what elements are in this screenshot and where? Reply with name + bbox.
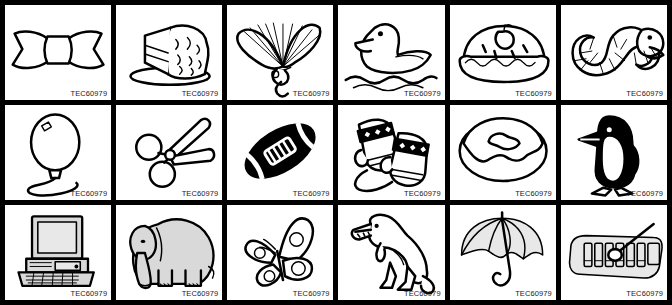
penguin-icon bbox=[561, 105, 667, 200]
clipart-cell-football[interactable]: TEC60979 bbox=[227, 105, 333, 200]
cell-code: TEC60979 bbox=[515, 289, 552, 299]
butterfly-icon bbox=[227, 205, 333, 300]
clipart-cell-pie[interactable]: TEC60979 bbox=[450, 5, 556, 100]
clipart-cell-butterfly[interactable]: TEC60979 bbox=[227, 205, 333, 300]
cell-code: TEC60979 bbox=[404, 89, 441, 99]
cell-code: TEC60979 bbox=[515, 189, 552, 199]
cell-code: TEC60979 bbox=[404, 289, 441, 299]
clipart-cell-duck[interactable]: TEC60979 bbox=[338, 5, 444, 100]
football-icon bbox=[227, 105, 333, 200]
clipart-cell-penguin[interactable]: TEC60979 bbox=[561, 105, 667, 200]
clipart-cell-umbrella[interactable]: TEC60979 bbox=[450, 205, 556, 300]
clipart-grid-sheet: TEC60979 TEC60979 TEC60979 bbox=[0, 0, 672, 305]
donut-icon bbox=[450, 105, 556, 200]
clipart-cell-xylophone[interactable]: TEC60979 bbox=[561, 205, 667, 300]
clipart-cell-computer[interactable]: TEC60979 bbox=[5, 205, 111, 300]
clipart-cell-mittens[interactable]: TEC60979 bbox=[338, 105, 444, 200]
duck-icon bbox=[338, 5, 444, 100]
clipart-cell-cake[interactable]: TEC60979 bbox=[116, 5, 222, 100]
clipart-cell-scissors[interactable]: TEC60979 bbox=[116, 105, 222, 200]
clipart-cell-balloon[interactable]: TEC60979 bbox=[5, 105, 111, 200]
dinosaur-icon bbox=[338, 205, 444, 300]
cell-code: TEC60979 bbox=[626, 189, 663, 199]
clipart-cell-snake[interactable]: TEC60979 bbox=[561, 5, 667, 100]
balloon-icon bbox=[5, 105, 111, 200]
cell-code: TEC60979 bbox=[626, 89, 663, 99]
cell-code: TEC60979 bbox=[626, 289, 663, 299]
cell-code: TEC60979 bbox=[515, 89, 552, 99]
cell-code: TEC60979 bbox=[293, 289, 330, 299]
elephant-icon bbox=[116, 205, 222, 300]
cake-icon bbox=[116, 5, 222, 100]
pie-icon bbox=[450, 5, 556, 100]
fan-icon bbox=[227, 5, 333, 100]
cell-code: TEC60979 bbox=[182, 89, 219, 99]
clipart-cell-donut[interactable]: TEC60979 bbox=[450, 105, 556, 200]
computer-icon bbox=[5, 205, 111, 300]
xylophone-icon bbox=[561, 205, 667, 300]
clipart-cell-dinosaur[interactable]: TEC60979 bbox=[338, 205, 444, 300]
bow-icon bbox=[5, 5, 111, 100]
cell-code: TEC60979 bbox=[71, 189, 108, 199]
cell-code: TEC60979 bbox=[404, 189, 441, 199]
cell-code: TEC60979 bbox=[182, 289, 219, 299]
umbrella-icon bbox=[450, 205, 556, 300]
cell-code: TEC60979 bbox=[293, 189, 330, 199]
snake-icon bbox=[561, 5, 667, 100]
cell-code: TEC60979 bbox=[71, 289, 108, 299]
scissors-icon bbox=[116, 105, 222, 200]
clipart-cell-bow[interactable]: TEC60979 bbox=[5, 5, 111, 100]
cell-code: TEC60979 bbox=[182, 189, 219, 199]
mittens-icon bbox=[338, 105, 444, 200]
cell-code: TEC60979 bbox=[293, 89, 330, 99]
clipart-cell-fan[interactable]: TEC60979 bbox=[227, 5, 333, 100]
cell-code: TEC60979 bbox=[71, 89, 108, 99]
clipart-cell-elephant[interactable]: TEC60979 bbox=[116, 205, 222, 300]
